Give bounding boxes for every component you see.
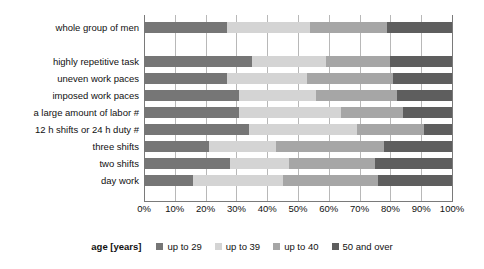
category-label: uneven work paces (0, 73, 139, 84)
x-tick-label: 90% (412, 203, 431, 215)
bar-segment (310, 22, 387, 33)
category-label: 12 h shifts or 24 h duty # (0, 124, 139, 135)
bar-segment (144, 22, 227, 33)
bar-rows (144, 15, 452, 201)
bar-segment (341, 107, 403, 118)
bar-row (144, 90, 452, 101)
x-tick-label: 0% (137, 203, 151, 215)
bar-segment (316, 90, 396, 101)
category-label: day work (0, 175, 139, 186)
bar-row (144, 73, 452, 84)
category-label: highly repetitive task (0, 56, 139, 67)
bar-segment (403, 107, 452, 118)
bar-segment (390, 56, 452, 67)
category-axis-labels: whole group of menhighly repetitive task… (0, 15, 139, 201)
bar-segment (252, 56, 326, 67)
category-label: a large amount of labor # (0, 107, 139, 118)
x-tick-label: 30% (227, 203, 246, 215)
x-tick-label: 70% (350, 203, 369, 215)
bar-segment (144, 90, 239, 101)
bar-segment (144, 56, 252, 67)
chart-legend: age [years] up to 29up to 39up to 4050 a… (0, 238, 484, 254)
x-tick-label: 20% (196, 203, 215, 215)
plot-area (144, 15, 452, 201)
bar-segment (375, 158, 452, 169)
bar-segment (144, 141, 209, 152)
legend-item[interactable]: 50 and over (332, 241, 393, 252)
category-label: imposed work paces (0, 90, 139, 101)
bar-segment (283, 175, 378, 186)
bar-segment (357, 124, 425, 135)
bar-row (144, 175, 452, 186)
bar-segment (276, 141, 384, 152)
bar-segment (289, 158, 375, 169)
category-label: three shifts (0, 141, 139, 152)
x-tick-label: 10% (165, 203, 184, 215)
bar-row (144, 56, 452, 67)
x-tick-label: 80% (381, 203, 400, 215)
bar-segment (144, 124, 249, 135)
bar-segment (144, 158, 230, 169)
x-axis-tick-labels: 0%10%20%30%40%50%60%70%80%90%100% (0, 203, 484, 217)
bar-row (144, 141, 452, 152)
bar-segment (144, 175, 193, 186)
x-tick-label: 100% (440, 203, 464, 215)
bar-segment (397, 90, 452, 101)
bar-segment (307, 73, 393, 84)
category-label: whole group of men (0, 22, 139, 33)
legend-item[interactable]: up to 39 (215, 241, 260, 252)
bar-segment (326, 56, 391, 67)
bar-row (144, 124, 452, 135)
bar-segment (144, 107, 239, 118)
legend-title: age [years] (91, 241, 141, 252)
x-tick-label: 60% (319, 203, 338, 215)
bar-row (144, 107, 452, 118)
x-tick-label: 40% (258, 203, 277, 215)
bar-segment (193, 175, 282, 186)
gridline (452, 15, 453, 201)
bar-segment (144, 73, 227, 84)
legend-swatch-icon (215, 243, 222, 250)
legend-label: up to 40 (284, 241, 318, 252)
legend-label: up to 39 (226, 241, 260, 252)
x-axis-line (144, 201, 453, 202)
bar-segment (230, 158, 289, 169)
legend-swatch-icon (332, 243, 339, 250)
category-label: two shifts (0, 158, 139, 169)
bar-segment (239, 90, 316, 101)
bar-segment (424, 124, 452, 135)
bar-segment (239, 107, 341, 118)
legend-swatch-icon (156, 243, 163, 250)
bar-segment (227, 22, 310, 33)
legend-label: up to 29 (167, 241, 201, 252)
bar-segment (378, 175, 452, 186)
legend-item[interactable]: up to 40 (273, 241, 318, 252)
bar-segment (393, 73, 452, 84)
stacked-bar-chart: whole group of menhighly repetitive task… (0, 0, 484, 269)
bar-segment (384, 141, 452, 152)
bar-segment (209, 141, 277, 152)
legend-label: 50 and over (343, 241, 393, 252)
bar-row (144, 158, 452, 169)
bar-row (144, 22, 452, 33)
legend-item[interactable]: up to 29 (156, 241, 201, 252)
x-tick-label: 50% (288, 203, 307, 215)
bar-segment (387, 22, 452, 33)
bar-segment (227, 73, 307, 84)
bar-segment (249, 124, 357, 135)
legend-swatch-icon (273, 243, 280, 250)
